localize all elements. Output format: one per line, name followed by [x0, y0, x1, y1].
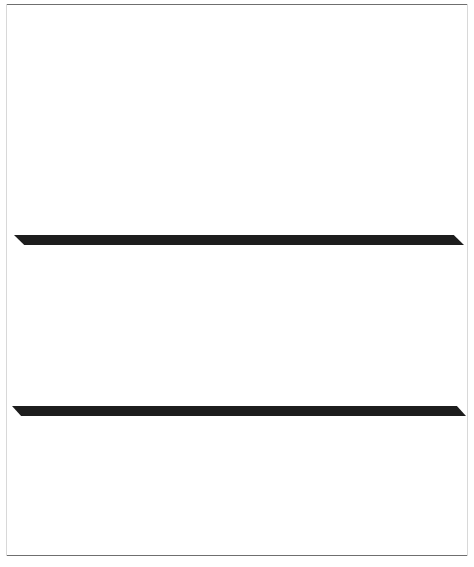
category-labels-location — [12, 420, 466, 542]
plot-area-location — [18, 294, 464, 404]
plot-area-time-of-day — [22, 36, 462, 232]
chart-time-of-day — [0, 14, 474, 282]
figure-root — [0, 0, 474, 567]
baseline-time-of-day — [14, 232, 464, 248]
top-rule — [6, 4, 468, 5]
chart-location — [0, 288, 474, 560]
baseline-location — [12, 404, 466, 418]
